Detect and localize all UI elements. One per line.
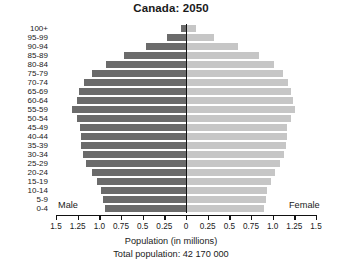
bar-female [186,70,283,77]
x-axis-tick [164,215,165,220]
age-group-label: 50-54 [0,114,52,123]
bar-female [186,34,214,41]
age-group-label: 25-29 [0,159,52,168]
x-axis [56,215,316,221]
bar-female [186,52,259,59]
x-axis-tick [99,215,100,220]
age-group-label: 75-79 [0,69,52,78]
bar-female [186,79,288,86]
bar-male [101,187,186,194]
bar-male [92,70,186,77]
bar-female [186,169,275,176]
age-group-label: 30-34 [0,150,52,159]
age-group-label: 45-49 [0,123,52,132]
bar-male [86,160,186,167]
bar-male [80,124,186,131]
bar-female [186,178,271,185]
age-group-label: 0-4 [0,204,52,213]
age-group-label: 65-69 [0,87,52,96]
bar-male [105,205,186,212]
age-group-label: 20-24 [0,168,52,177]
bar-male [77,97,186,104]
bar-male [146,43,186,50]
x-axis-tick [208,215,209,220]
bar-male [84,79,186,86]
x-axis-tick-labels: 1.51.251.00.750.50.2500.250.50.751.01.25… [36,222,336,234]
x-axis-tick [186,215,187,220]
age-group-label: 85-89 [0,51,52,60]
bar-female [186,97,293,104]
age-group-label: 55-59 [0,105,52,114]
bar-male [81,133,186,140]
age-group-label: 35-39 [0,141,52,150]
bar-male [106,61,186,68]
age-group-label: 15-19 [0,177,52,186]
x-axis-tick-label: 1.5 [301,222,331,231]
bar-male [124,52,186,59]
bar-female [186,25,196,32]
age-group-label: 5-9 [0,195,52,204]
x-axis-tick [294,215,295,220]
bar-female [186,43,238,50]
bar-female [186,133,287,140]
age-group-label: 40-44 [0,132,52,141]
bar-female [186,88,291,95]
bar-male [167,34,186,41]
bar-female [186,115,291,122]
bar-male [97,178,186,185]
age-group-axis-labels: 100+95-9990-9485-8980-8475-7970-7465-696… [0,24,52,213]
bar-male [79,88,186,95]
bar-female [186,61,274,68]
bar-male [103,196,186,203]
legend-female-label: Female [289,200,320,210]
bar-male [83,151,186,158]
x-axis-tick [316,215,317,220]
bar-female [186,151,284,158]
x-axis-tick [121,215,122,220]
bar-male [72,106,186,113]
bar-female [186,205,264,212]
total-population-caption: Total population: 42 170 000 [0,249,342,259]
age-group-label: 70-74 [0,78,52,87]
chart-title: Canada: 2050 [0,2,342,14]
age-group-label: 95-99 [0,33,52,42]
population-pyramid-chart: Canada: 2050 100+95-9990-9485-8980-8475-… [0,0,342,273]
bar-female [186,160,280,167]
x-axis-tick [251,215,252,220]
bar-male [81,142,186,149]
bar-female [186,124,287,131]
plot-area [56,24,316,213]
x-axis-tick [273,215,274,220]
age-group-label: 60-64 [0,96,52,105]
center-axis-line [186,24,187,213]
x-axis-tick [143,215,144,220]
bar-female [186,106,295,113]
bar-female [186,196,266,203]
bar-male [92,169,186,176]
age-group-label: 80-84 [0,60,52,69]
x-axis-title: Population (in millions) [0,236,342,246]
bar-female [186,142,286,149]
x-axis-tick [229,215,230,220]
x-axis-tick [78,215,79,220]
age-group-label: 90-94 [0,42,52,51]
bar-male [77,115,186,122]
x-axis-tick [56,215,57,220]
legend-male-label: Male [58,200,78,210]
bar-female [186,187,267,194]
age-group-label: 100+ [0,24,52,33]
age-group-label: 10-14 [0,186,52,195]
